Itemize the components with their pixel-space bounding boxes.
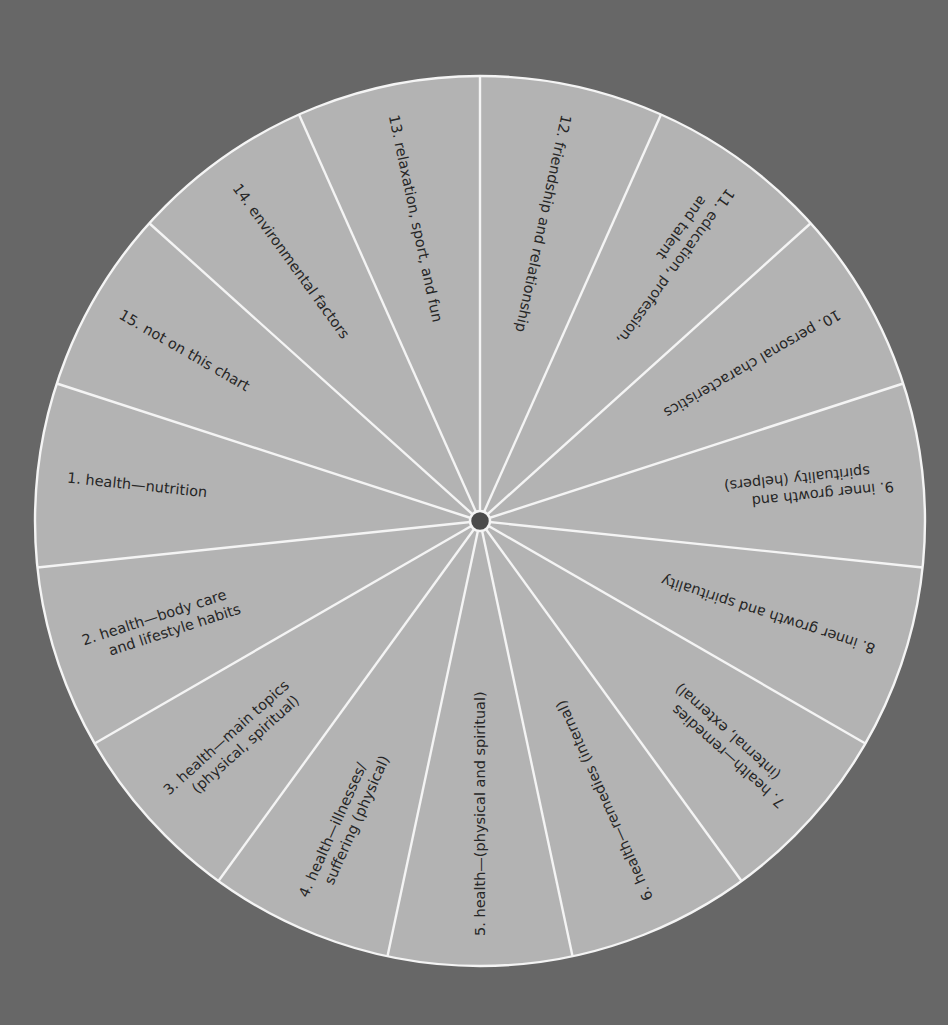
label-line-primary: 5. health—(physical and spiritual) [472, 691, 488, 936]
center-hub [470, 511, 490, 531]
wheel-chart: 12. friendship and relationship11. educa… [0, 0, 948, 1025]
segment-label-5: 5. health—(physical and spiritual) [472, 691, 488, 936]
wheel-svg: 12. friendship and relationship11. educa… [0, 0, 948, 1025]
